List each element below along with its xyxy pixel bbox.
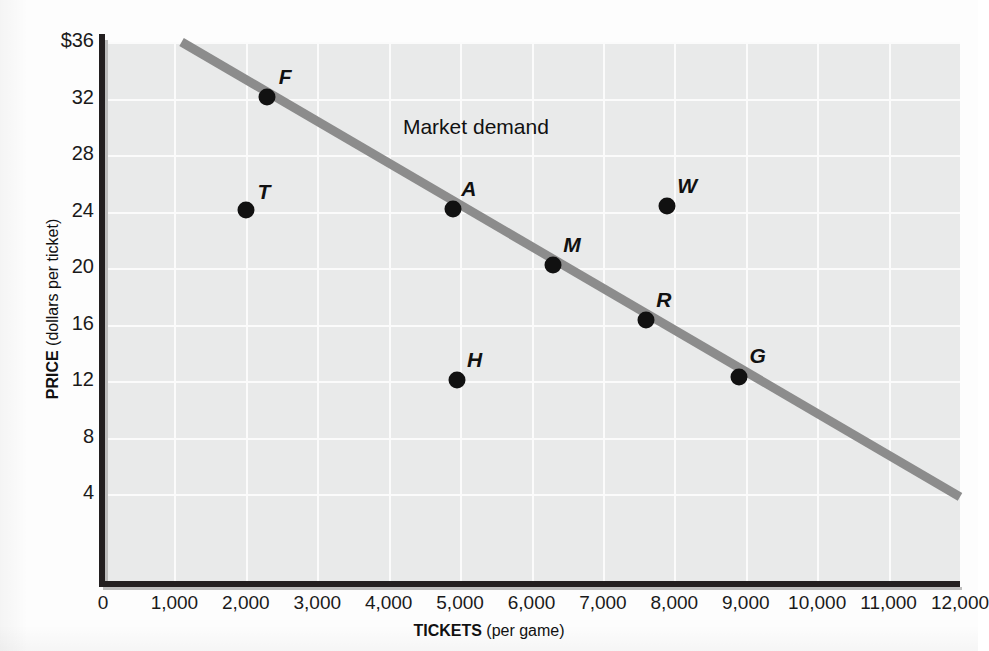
vertical-gridline — [246, 42, 248, 583]
vertical-gridline — [174, 42, 176, 583]
vertical-gridline — [603, 42, 605, 583]
y-tick-label: 4 — [24, 481, 94, 504]
y-axis-line — [99, 34, 105, 587]
x-tick-label: 0 — [98, 592, 109, 614]
x-tick-label: 6,000 — [508, 592, 556, 614]
data-point-h — [448, 371, 465, 388]
y-axis-title: PRICE (dollars per ticket) — [44, 159, 62, 459]
point-label-f: F — [279, 65, 292, 89]
x-tick-label: 5,000 — [436, 592, 484, 614]
x-tick-label: 4,000 — [365, 592, 413, 614]
point-label-t: T — [257, 180, 270, 204]
x-axis-line — [99, 581, 960, 587]
x-axis-title: TICKETS (per game) — [0, 622, 978, 640]
x-tick-label: 8,000 — [651, 592, 699, 614]
data-point-r — [637, 312, 654, 329]
x-axis-shadow — [103, 587, 962, 590]
horizontal-gridline — [103, 268, 960, 270]
horizontal-gridline — [103, 99, 960, 101]
point-label-a: A — [461, 177, 476, 201]
y-axis-title-bold: PRICE — [44, 350, 61, 399]
x-tick-label: 3,000 — [293, 592, 341, 614]
horizontal-gridline — [103, 494, 960, 496]
horizontal-gridline — [103, 438, 960, 440]
horizontal-gridline — [103, 212, 960, 214]
horizontal-gridline — [103, 155, 960, 157]
vertical-gridline — [317, 42, 319, 583]
vertical-gridline — [674, 42, 676, 583]
x-tick-label: 11,000 — [860, 592, 917, 614]
y-tick-label: $36 — [24, 29, 94, 52]
y-axis-title-rest: (dollars per ticket) — [44, 219, 61, 351]
y-axis-shadow — [105, 40, 108, 589]
point-label-r: R — [656, 288, 671, 312]
data-point-w — [659, 197, 676, 214]
x-axis-title-bold: TICKETS — [413, 622, 481, 639]
x-axis-title-rest: (per game) — [482, 622, 565, 639]
point-label-g: G — [749, 344, 765, 368]
vertical-gridline — [746, 42, 748, 583]
x-tick-label: 7,000 — [579, 592, 627, 614]
point-label-m: M — [563, 233, 581, 257]
horizontal-gridline — [103, 325, 960, 327]
data-point-m — [544, 257, 561, 274]
y-tick-label: 32 — [24, 86, 94, 109]
data-point-f — [259, 89, 276, 106]
data-point-t — [237, 202, 254, 219]
vertical-gridline — [389, 42, 391, 583]
x-tick-label: 12,000 — [931, 592, 989, 614]
point-label-w: W — [677, 174, 697, 198]
x-tick-label: 2,000 — [222, 592, 270, 614]
x-tick-label: 10,000 — [788, 592, 846, 614]
horizontal-gridline — [103, 42, 960, 44]
vertical-gridline — [889, 42, 891, 583]
vertical-gridline — [817, 42, 819, 583]
data-point-g — [730, 368, 747, 385]
data-point-a — [444, 200, 461, 217]
point-label-h: H — [467, 348, 482, 372]
x-tick-label: 1,000 — [151, 592, 199, 614]
x-tick-label: 9,000 — [722, 592, 770, 614]
market-demand-label: Market demand — [403, 115, 549, 139]
horizontal-gridline — [103, 381, 960, 383]
